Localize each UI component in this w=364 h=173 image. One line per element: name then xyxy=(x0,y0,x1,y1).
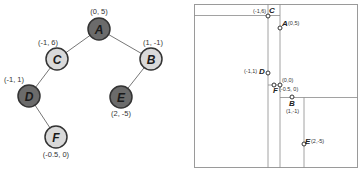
tree-node-d: D (-1, 1) xyxy=(4,75,40,107)
node-label: C xyxy=(53,53,62,67)
kd-partition-plot: (-1,6) C A (0,5) (-1,1) D (0,0) F (-0.5,… xyxy=(195,5,358,168)
node-label: F xyxy=(52,131,60,145)
point-coord: (-1,1) xyxy=(244,68,257,74)
point-coord: (0,5) xyxy=(288,20,299,26)
point-label: D xyxy=(259,67,265,76)
node-label: D xyxy=(25,90,34,104)
node-label: E xyxy=(117,91,126,105)
point-coord: (1,-1) xyxy=(286,108,299,114)
point-coord: (0,0) xyxy=(282,77,293,83)
tree-node-e: E (2, -5) xyxy=(110,86,132,118)
kd-tree-figure: A (0, 5) C (-1, 6) B (1, -1) D (-1, 1) E… xyxy=(0,0,364,173)
tree-diagram: A (0, 5) C (-1, 6) B (1, -1) D (-1, 1) E… xyxy=(4,7,164,159)
node-coord: (-1, 6) xyxy=(38,38,59,47)
point-d xyxy=(266,71,270,75)
tree-node-c: C (-1, 6) xyxy=(38,38,68,70)
point-label: A xyxy=(281,19,288,28)
node-label: A xyxy=(94,23,104,37)
tree-node-a: A (0, 5) xyxy=(88,7,110,40)
node-coord: (-0.5, 0) xyxy=(43,150,70,159)
node-coord: (-1, 1) xyxy=(4,75,25,84)
node-coord: (2, -5) xyxy=(111,109,132,118)
point-coord: (2,-5) xyxy=(311,138,324,144)
point-coord: (-1,6) xyxy=(253,8,266,14)
tree-node-b: B (1, -1) xyxy=(140,38,163,70)
point-label: B xyxy=(289,99,295,108)
tree-node-f: F (-0.5, 0) xyxy=(43,126,70,159)
node-label: B xyxy=(147,53,156,67)
point-label: C xyxy=(269,6,275,15)
point-coord: (-0.5, 0) xyxy=(279,86,298,92)
node-coord: (1, -1) xyxy=(143,38,164,47)
node-coord: (0, 5) xyxy=(90,7,108,16)
